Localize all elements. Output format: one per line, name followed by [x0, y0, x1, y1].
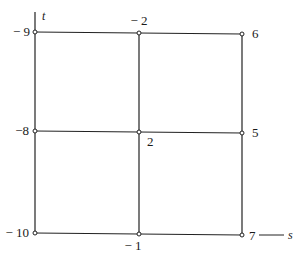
node-r2-c0 [33, 231, 37, 235]
node-value-r0-c2: 6 [252, 26, 259, 41]
node-value-r1-c0: −8 [15, 123, 29, 138]
node-r1-c2 [240, 131, 244, 135]
node-value-r2-c0: − 10 [5, 225, 29, 240]
s-axis-label: s [288, 228, 293, 242]
node-r1-c0 [33, 129, 37, 133]
node-r0-c0 [33, 30, 37, 34]
node-r2-c1 [137, 232, 141, 236]
grid-diagram: t s − 9 − 2 6 −8 2 5 − 10 − 1 7 [0, 0, 303, 255]
node-value-r2-c2: 7 [249, 228, 256, 243]
t-axis-label: t [42, 9, 46, 23]
node-value-r1-c2: 5 [252, 125, 259, 140]
node-value-r0-c1: − 2 [130, 13, 147, 28]
node-r2-c2 [240, 233, 244, 237]
node-r0-c2 [240, 32, 244, 36]
node-value-r1-c1: 2 [147, 134, 154, 149]
node-r0-c1 [137, 31, 141, 35]
node-r1-c1 [137, 130, 141, 134]
node-value-r2-c1: − 1 [124, 238, 141, 253]
node-value-r0-c0: − 9 [13, 24, 30, 39]
